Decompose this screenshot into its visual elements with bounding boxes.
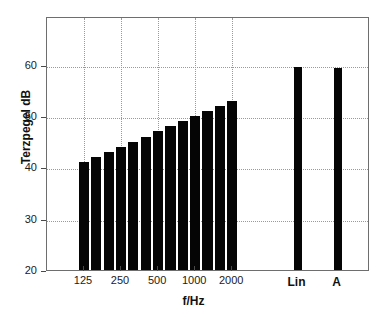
bar-1250hz — [202, 111, 212, 270]
bar-400hz — [141, 137, 151, 270]
bar-1000hz — [190, 116, 200, 270]
x-tick-250 — [120, 266, 121, 271]
bar-800hz — [178, 121, 188, 270]
bar-315hz — [128, 142, 138, 270]
bar-lin — [294, 67, 302, 270]
x-tick-125 — [83, 266, 84, 271]
bar-200hz — [104, 152, 114, 270]
chart-figure: Terzpegel dB 2030405060 1252505001000200… — [0, 0, 387, 317]
x-tick-2000 — [231, 266, 232, 271]
bar-500hz — [153, 131, 163, 270]
y-tick-label-20: 20 — [0, 265, 37, 276]
y-tick-label-60: 60 — [0, 60, 37, 71]
x-tick-500 — [157, 266, 158, 271]
plot-area — [46, 17, 369, 271]
x-tick-label-2000: 2000 — [201, 275, 261, 286]
x-axis-title: f/Hz — [0, 294, 387, 308]
bar-2000hz — [227, 101, 237, 270]
y-axis-title: Terzpegel dB — [19, 57, 33, 197]
x-tick-1000 — [194, 266, 195, 271]
bar-160hz — [91, 157, 101, 270]
bar-125hz — [79, 162, 89, 270]
gridline-y-60 — [47, 67, 368, 68]
y-tick-label-40: 40 — [0, 162, 37, 173]
bar-a — [334, 68, 342, 270]
bar-630hz — [165, 126, 175, 270]
category-label-a: A — [307, 276, 367, 288]
y-tick-20 — [41, 271, 46, 272]
y-tick-label-30: 30 — [0, 214, 37, 225]
y-tick-label-50: 50 — [0, 111, 37, 122]
bar-250hz — [116, 147, 126, 270]
bar-1600hz — [215, 106, 225, 270]
